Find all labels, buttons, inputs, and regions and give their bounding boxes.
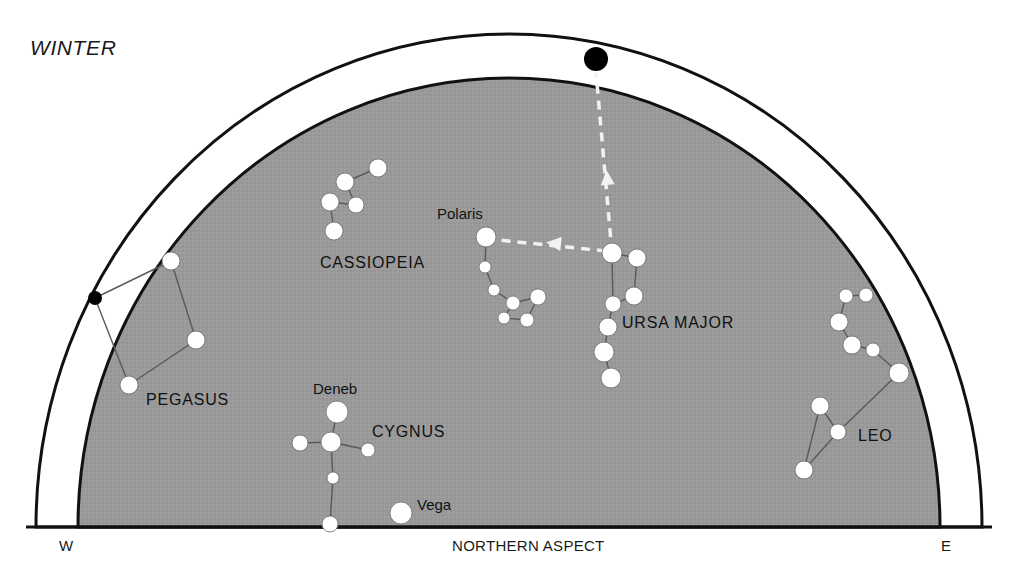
star-marker	[498, 312, 510, 324]
star-marker	[594, 342, 614, 362]
star-marker	[866, 343, 880, 357]
star-marker	[361, 443, 375, 457]
star-label-polaris: Polaris	[437, 205, 483, 222]
star-marker	[322, 516, 338, 532]
star-marker	[336, 173, 354, 191]
star-marker	[843, 336, 861, 354]
star-marker	[889, 363, 909, 383]
season-title: WINTER	[30, 36, 116, 60]
star-marker	[321, 193, 339, 211]
star-marker	[599, 318, 617, 336]
star-marker	[325, 222, 343, 240]
star-marker	[321, 432, 341, 452]
star-label-deneb: Deneb	[313, 380, 357, 397]
star-marker	[795, 461, 813, 479]
star-marker	[120, 376, 138, 394]
star-marker	[476, 227, 496, 247]
star-marker	[292, 435, 308, 451]
constellation-label-cassiopeia: CASSIOPEIA	[320, 254, 425, 272]
star-marker	[479, 261, 491, 273]
constellation-label-cygnus: CYGNUS	[372, 423, 445, 441]
star-chart: WINTER W E NORTHERN ASPECT CASSIOPEIAPol…	[0, 0, 1013, 583]
star-marker	[327, 472, 339, 484]
marker-zenith	[584, 47, 608, 71]
compass-label-east: E	[941, 537, 951, 554]
constellation-label-pegasus: PEGASUS	[146, 391, 229, 409]
star-marker	[506, 296, 520, 310]
star-marker	[488, 284, 500, 296]
star-marker	[601, 368, 621, 388]
star-marker	[348, 197, 364, 213]
star-marker	[520, 313, 534, 327]
aspect-label: NORTHERN ASPECT	[452, 537, 605, 554]
star-marker	[625, 287, 643, 305]
star-marker	[811, 397, 829, 415]
star-marker	[326, 401, 348, 423]
star-marker	[187, 331, 205, 349]
star-marker	[605, 296, 621, 312]
marker-pegasus-outer-star	[88, 291, 102, 305]
sky-dome-svg	[0, 0, 1013, 583]
star-marker	[530, 289, 546, 305]
star-marker	[830, 313, 848, 331]
star-marker	[839, 289, 853, 303]
star-marker	[602, 243, 622, 263]
star-marker	[859, 288, 873, 302]
star-marker	[162, 252, 180, 270]
constellation-label-leo: LEO	[858, 427, 892, 445]
star-marker	[830, 424, 846, 440]
star-marker	[628, 249, 646, 267]
star-marker	[390, 502, 412, 524]
star-label-vega: Vega	[417, 496, 451, 513]
compass-label-west: W	[59, 537, 73, 554]
star-marker	[369, 159, 387, 177]
dome-layer	[26, 34, 992, 527]
constellation-label-ursa-major: URSA MAJOR	[622, 314, 734, 332]
